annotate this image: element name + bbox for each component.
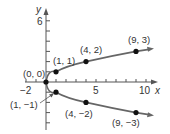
label-9-3: (9, 3)	[128, 34, 150, 45]
x-tick-label-neg2: −2	[20, 85, 32, 96]
y-axis-arrow-icon	[44, 8, 49, 15]
label-1-neg1: (1, −1)	[10, 99, 38, 110]
label-4-2: (4, 2)	[80, 44, 102, 55]
upper-branch-arrow-icon	[147, 47, 154, 52]
y-axis-label: y	[35, 4, 42, 15]
label-1-1: (1, 1)	[53, 55, 75, 66]
y-tick-label-6: 6	[37, 16, 43, 27]
x-tick-label-10: 10	[139, 85, 151, 96]
label-0-0: (0, 0)	[23, 68, 45, 79]
leader-arrow-icon	[49, 93, 54, 97]
x-axis-arrow-icon	[151, 80, 158, 85]
point-9-3	[133, 49, 138, 54]
point-9-neg3	[133, 110, 138, 115]
label-9-neg3: (9, −3)	[112, 117, 140, 128]
x-tick-label-5: 5	[93, 85, 99, 96]
point-1-neg1	[53, 90, 58, 95]
parabola-chart: −2 5 10 x 6 y	[0, 0, 170, 134]
x-axis: −2 5 10 x	[20, 79, 161, 96]
y-axis: 6 y	[35, 4, 50, 130]
point-0-0	[43, 79, 48, 84]
lower-branch-arrow-icon	[147, 112, 154, 117]
point-4-2	[83, 59, 88, 64]
point-4-neg2	[83, 100, 88, 105]
point-1-1	[53, 69, 58, 74]
x-axis-label: x	[154, 85, 161, 96]
label-4-neg2: (4, −2)	[65, 108, 93, 119]
